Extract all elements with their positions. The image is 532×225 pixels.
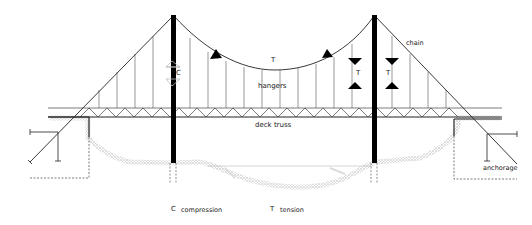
- suspension-bridge-diagram: T hangers C T T chain deck truss anchora…: [0, 0, 532, 225]
- arrow-right-icon: [322, 49, 333, 58]
- label-right-tower-tension-right: T: [386, 70, 390, 77]
- hangers: [99, 36, 446, 108]
- bridge-drawing: [0, 0, 532, 225]
- label-right-tower-tension-left: T: [356, 70, 360, 77]
- label-anchorage: anchorage: [483, 165, 518, 172]
- legend-text-compression: compression: [181, 207, 222, 214]
- legend-symbol-tension: T: [270, 206, 274, 213]
- towers: [170, 15, 377, 184]
- deck-truss: [48, 108, 502, 117]
- label-main-span-tension: T: [271, 57, 275, 64]
- legend-text-tension: tension: [280, 207, 304, 214]
- label-left-tower-compression: C: [176, 70, 181, 77]
- label-chain: chain: [406, 40, 424, 47]
- legend-symbol-compression: C: [171, 206, 176, 213]
- label-deck-truss: deck truss: [255, 122, 291, 129]
- right-tower: [372, 15, 377, 163]
- label-hangers: hangers: [258, 83, 286, 90]
- chain: [30, 16, 517, 164]
- left-tower: [171, 15, 176, 163]
- left-anchorage: [28, 117, 89, 178]
